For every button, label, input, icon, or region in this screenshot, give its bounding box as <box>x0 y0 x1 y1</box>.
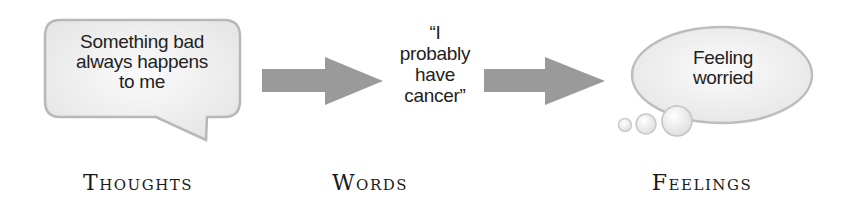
words-line-2: probably <box>383 43 487 64</box>
arrow-right-icon <box>484 57 605 105</box>
arrow-right-icon <box>262 57 383 105</box>
feeling-line-1: Feeling <box>660 48 786 68</box>
words-statement: “I probably have cancer” <box>383 22 487 106</box>
thought-line-2: always happens <box>50 52 234 72</box>
words-line-3: have <box>383 64 487 85</box>
thoughts-words-feelings-diagram: Something bad always happens to me “I pr… <box>0 0 854 210</box>
feeling-line-2: worried <box>660 68 786 88</box>
thought-line-3: to me <box>50 72 234 92</box>
thought-statement: Something bad always happens to me <box>50 32 234 92</box>
words-line-1: “I <box>383 22 487 43</box>
thought-line-1: Something bad <box>50 32 234 52</box>
feeling-statement: Feeling worried <box>660 48 786 88</box>
words-line-4: cancer” <box>383 85 487 106</box>
label-feelings: Feelings <box>612 170 792 195</box>
label-thoughts: Thoughts <box>48 170 228 195</box>
label-words: Words <box>280 170 460 195</box>
